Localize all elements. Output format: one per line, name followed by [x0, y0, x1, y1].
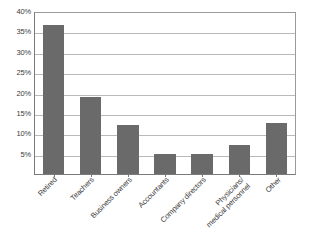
x-axis-tick-label-line: Other — [264, 175, 283, 194]
bar-slot — [221, 13, 258, 174]
bar-chart: 5%10%15%20%25%30%35%40% RetiredTeachersB… — [0, 0, 314, 247]
y-axis-tick-label: 40% — [5, 8, 31, 16]
bar-slot — [258, 13, 295, 174]
y-axis-tick-label: 25% — [5, 69, 31, 77]
x-axis-tick-label: Physicians/medical personnel — [199, 176, 252, 229]
y-axis-tick-label: 35% — [5, 29, 31, 37]
x-axis-tick-label-line: Retired — [36, 175, 59, 198]
x-axis-tick-label-line: Teachers — [69, 175, 96, 202]
bar[interactable] — [154, 154, 176, 174]
bar[interactable] — [43, 25, 65, 174]
bar-slot — [184, 13, 221, 174]
bar[interactable] — [80, 97, 102, 174]
x-axis-tick-label-line: Accountants — [136, 175, 170, 209]
x-axis-tick-label: Business owners — [89, 176, 134, 221]
y-axis-tick-label: 10% — [5, 131, 31, 139]
x-axis-tick-label: Accountants — [137, 176, 171, 210]
bar[interactable] — [117, 125, 139, 174]
x-axis-tick-label: Teachers — [69, 176, 96, 203]
plot-area — [34, 12, 296, 175]
bar-slot — [72, 13, 109, 174]
y-axis-tick-label: 15% — [5, 110, 31, 118]
x-axis: RetiredTeachersBusiness ownersAccountant… — [34, 176, 296, 247]
bar[interactable] — [266, 123, 288, 174]
y-axis-tick-label: 20% — [5, 90, 31, 98]
x-axis-tick-label: Retired — [36, 176, 58, 198]
y-axis-tick-label: 5% — [5, 151, 31, 159]
y-axis: 5%10%15%20%25%30%35%40% — [0, 0, 31, 247]
bars-series — [35, 13, 295, 174]
bar[interactable] — [229, 145, 251, 174]
bar-slot — [35, 13, 72, 174]
x-axis-tick-label: Other — [265, 176, 284, 195]
y-axis-tick-label: 30% — [5, 49, 31, 57]
bar-slot — [109, 13, 146, 174]
bar[interactable] — [191, 154, 213, 174]
bar-slot — [146, 13, 183, 174]
